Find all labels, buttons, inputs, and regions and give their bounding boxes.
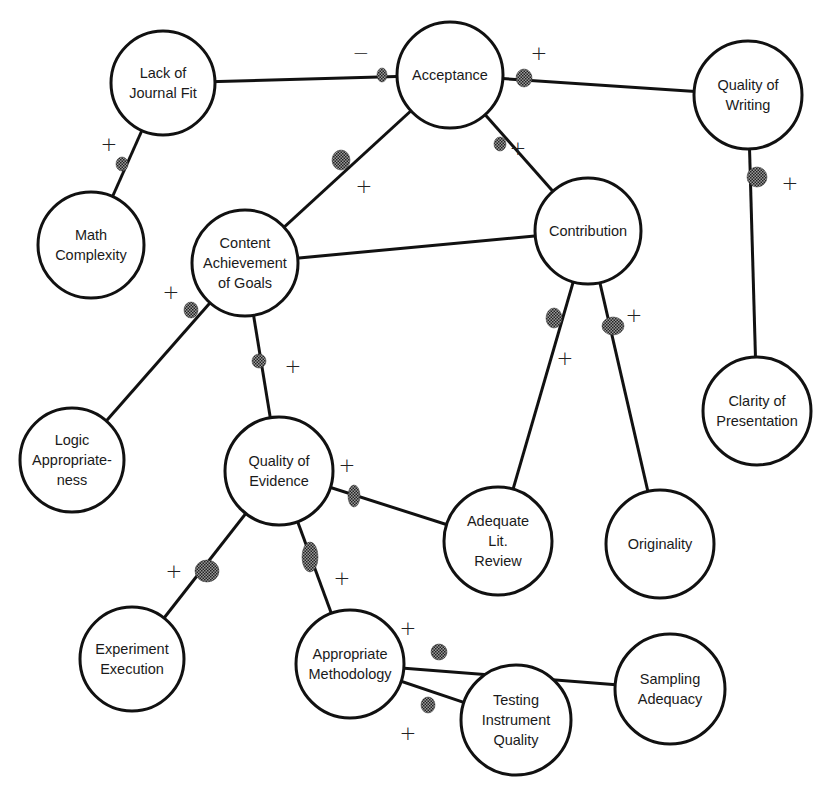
node-label: Methodology: [308, 666, 392, 682]
node-label: Instrument: [482, 712, 551, 728]
link-marker-icon: [421, 697, 435, 713]
node-contribution: Contribution: [535, 178, 641, 284]
node-label: Appropriate-: [32, 452, 112, 468]
node-acceptance: Acceptance: [397, 22, 503, 128]
link-marker-icon: [302, 542, 318, 572]
link-marker-icon: [116, 157, 128, 171]
node-label: Quality of: [717, 77, 779, 93]
node-appropriate-methodology: AppropriateMethodology: [296, 610, 404, 718]
node-label: Evidence: [249, 473, 309, 489]
node-label: Clarity of: [728, 393, 786, 409]
link-marker-icon: [516, 69, 532, 87]
node-label: ness: [57, 472, 88, 488]
node-originality: Originality: [606, 490, 714, 598]
node-testing-instrument-quality: TestingInstrumentQuality: [461, 665, 571, 775]
node-label: Lit.: [488, 533, 507, 549]
node-label: Testing: [493, 692, 539, 708]
node-label: Adequate: [467, 513, 529, 529]
node-label: Experiment: [95, 641, 168, 657]
link-marker-icon: [195, 560, 219, 582]
node-label: Content: [220, 235, 271, 251]
link-marker-icon: [252, 354, 266, 368]
node-label: Quality: [493, 732, 539, 748]
link-marker-icon: [546, 308, 562, 328]
node-circle: [111, 31, 215, 135]
link-marker-icon: [332, 150, 350, 170]
node-circle: [615, 634, 725, 744]
positive-sign: +: [531, 41, 548, 65]
positive-sign: +: [400, 616, 417, 640]
node-circle: [38, 192, 144, 298]
positive-sign: +: [166, 559, 183, 583]
positive-sign: +: [334, 566, 351, 590]
node-label: Logic: [55, 432, 90, 448]
positive-sign: +: [163, 280, 180, 304]
node-label: Writing: [726, 97, 771, 113]
node-label: Appropriate: [313, 646, 388, 662]
node-label: Adequacy: [638, 691, 703, 707]
negative-sign: −: [353, 41, 370, 65]
node-label: Originality: [628, 536, 693, 552]
positive-sign: +: [782, 171, 799, 195]
node-circle: [225, 417, 333, 525]
node-logic-appropriateness: LogicAppropriate-ness: [20, 408, 124, 512]
node-label: Journal Fit: [129, 85, 197, 101]
node-circle: [703, 357, 811, 465]
link-marker-icon: [184, 302, 198, 318]
positive-sign: +: [101, 132, 118, 156]
node-label: Quality of: [248, 453, 310, 469]
positive-sign: +: [510, 136, 527, 160]
positive-sign: +: [400, 721, 417, 745]
node-label: Contribution: [549, 223, 627, 239]
node-label: of Goals: [218, 275, 272, 291]
node-content-achievement-of-goals: ContentAchievementof Goals: [192, 210, 298, 316]
link-marker-icon: [602, 317, 624, 335]
positive-sign: +: [339, 453, 356, 477]
node-lack-of-journal-fit: Lack ofJournal Fit: [111, 31, 215, 135]
node-label: Math: [75, 227, 107, 243]
link-marker-icon: [348, 485, 360, 507]
node-adequate-lit-review: AdequateLit.Review: [444, 487, 552, 595]
node-label: Sampling: [640, 671, 700, 687]
node-label: Lack of: [140, 65, 188, 81]
positive-sign: +: [285, 354, 302, 378]
node-label: Review: [474, 553, 522, 569]
node-sampling-adequacy: SamplingAdequacy: [615, 634, 725, 744]
node-label: Complexity: [55, 247, 127, 263]
node-label: Achievement: [203, 255, 287, 271]
node-quality-of-writing: Quality ofWriting: [694, 41, 802, 149]
causal-diagram: Lack ofJournal FitAcceptanceQuality ofWr…: [0, 0, 830, 793]
node-circle: [80, 607, 184, 711]
positive-sign: +: [557, 346, 574, 370]
link-marker-icon: [431, 644, 447, 660]
node-clarity-of-presentation: Clarity ofPresentation: [703, 357, 811, 465]
link-marker-icon: [747, 167, 767, 187]
positive-sign: +: [356, 174, 373, 198]
node-math-complexity: MathComplexity: [38, 192, 144, 298]
link-marker-icon: [494, 137, 506, 151]
node-circle: [296, 610, 404, 718]
node-circle: [694, 41, 802, 149]
node-experiment-execution: ExperimentExecution: [80, 607, 184, 711]
node-label: Presentation: [716, 413, 797, 429]
positive-sign: +: [626, 303, 643, 327]
link-marker-icon: [377, 68, 387, 82]
node-quality-of-evidence: Quality ofEvidence: [225, 417, 333, 525]
node-label: Acceptance: [412, 67, 488, 83]
markers-layer: [116, 68, 767, 713]
node-label: Execution: [100, 661, 164, 677]
